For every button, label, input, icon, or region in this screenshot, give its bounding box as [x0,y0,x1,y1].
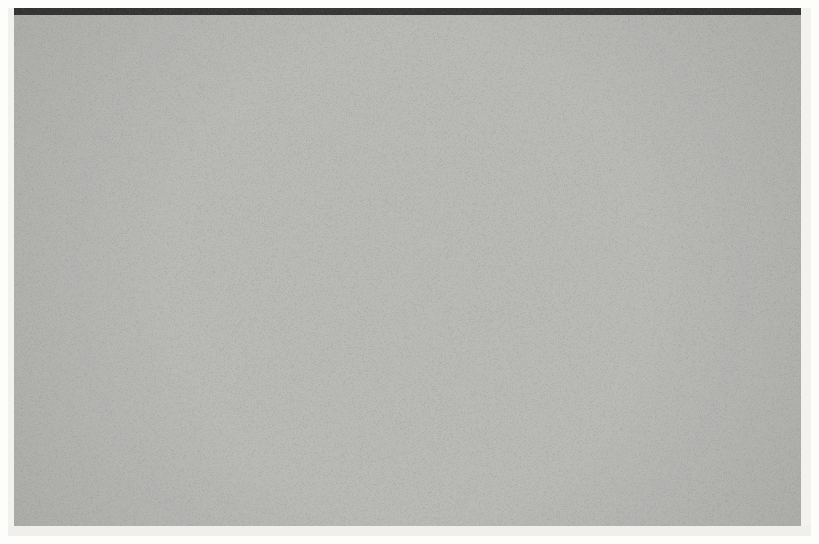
plate-left-edge [8,8,14,536]
plate-bottom-edge [8,526,811,536]
plate-right-edge [801,8,811,536]
op-art-artwork: Op-Art Modulated Grid [0,0,819,544]
print-plate [8,8,811,536]
modulated-grid-canvas [8,8,811,536]
